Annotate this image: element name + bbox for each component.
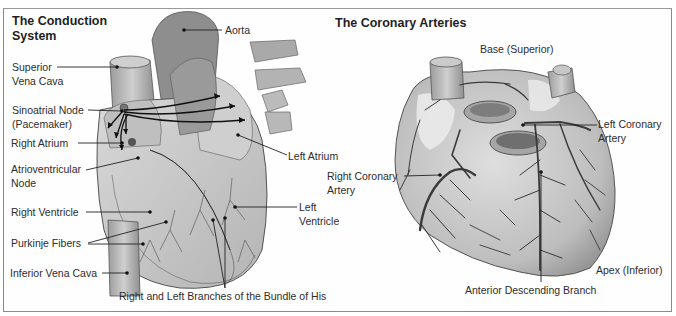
label-right-coronary-line2: Artery <box>327 184 355 197</box>
label-apex-inferior: Apex (Inferior) <box>596 264 663 277</box>
label-pacemaker: (Pacemaker) <box>12 118 72 131</box>
conduction-title: The Conduction System <box>12 14 107 44</box>
label-right-coronary-line1: Right Coronary <box>327 170 398 183</box>
conduction-title-line2: System <box>12 29 107 44</box>
label-right-ventricle: Right Ventricle <box>11 206 79 219</box>
label-atrioventricular: Atrioventricular <box>11 163 81 176</box>
label-left-coronary-line1: Left Coronary <box>598 118 662 131</box>
label-purkinje-fibers: Purkinje Fibers <box>11 237 81 250</box>
label-left-ventricle-line1: Left <box>299 201 317 214</box>
label-superior-vena-cava-line1: Superior <box>12 61 52 74</box>
coronary-heart-drawing <box>395 57 615 276</box>
label-bundle-of-his: Right and Left Branches of the Bundle of… <box>119 290 326 303</box>
label-aorta: Aorta <box>225 24 250 37</box>
coronary-title: The Coronary Arteries <box>335 16 467 31</box>
label-left-ventricle-line2: Ventricle <box>299 215 339 228</box>
label-av-node: Node <box>11 177 36 190</box>
label-base-superior: Base (Superior) <box>480 43 554 56</box>
label-superior-vena-cava-line2: Vena Cava <box>12 75 63 88</box>
label-left-atrium: Left Atrium <box>288 150 338 163</box>
label-inferior-vena-cava: Inferior Vena Cava <box>10 267 97 280</box>
conduction-heart-drawing <box>97 12 306 296</box>
conduction-title-line1: The Conduction <box>12 14 107 29</box>
label-left-coronary-line2: Artery <box>598 132 626 145</box>
label-anterior-descending-branch: Anterior Descending Branch <box>465 284 596 297</box>
label-right-atrium: Right Atrium <box>11 137 68 150</box>
label-sinoatrial-node: Sinoatrial Node <box>12 104 84 117</box>
